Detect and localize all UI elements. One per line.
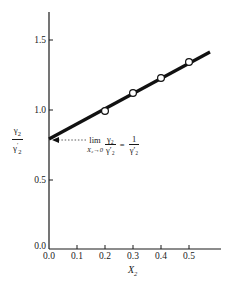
annotation-lhs-numerator: γ₂ [105,134,116,145]
data-point [102,108,109,115]
x-tick-label: 0.3 [121,251,145,261]
y-tick-label: 0.5 [20,175,46,185]
data-point [130,90,137,97]
data-point [158,75,165,82]
y-axis-title: γ2 γ′2 [12,125,23,157]
x-tick-label: 0.5 [177,251,201,261]
annotation-lim: lim [89,135,100,145]
x-axis-title-sub: 2 [134,270,137,277]
y-tick-label: 1.0 [20,105,46,115]
x-tick-label: 0.2 [93,251,117,261]
y-title-num-sub: 2 [18,130,21,137]
y-tick-label: 1.5 [20,35,46,45]
annotation-equals: = [120,140,125,150]
annotation-rhs-denominator: γ′₂ [129,145,140,155]
annotation-lim-subscript: X₂→0 [87,145,103,154]
y-tick-label: 0.0 [20,241,46,251]
limit-annotation: lim X₂→0 γ₂ γ′₂ = 1 γ′₂ [87,134,139,155]
x-axis-title: X2 [128,264,137,277]
x-tick-label: 0.0 [37,251,61,261]
fitted-line [49,52,210,139]
annotation-rhs-numerator: 1 [129,134,140,145]
x-tick-label: 0.4 [149,251,173,261]
data-point [186,59,193,66]
y-title-den-sub: 2 [18,148,21,155]
x-tick-label: 0.1 [65,251,89,261]
annotation-lhs-denominator: γ′₂ [105,145,116,155]
